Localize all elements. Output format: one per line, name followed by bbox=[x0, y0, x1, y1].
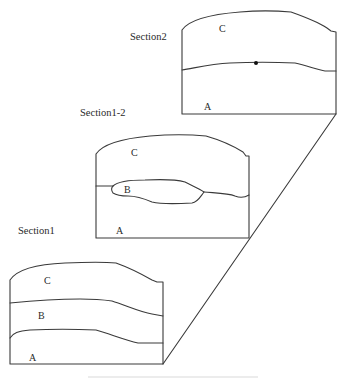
section2-marker-dot bbox=[254, 61, 258, 65]
stratigraphic-sections-diagram: Section2 C A Section1-2 C B A Section1 C… bbox=[0, 0, 347, 381]
section1-label: Section1 bbox=[18, 225, 55, 236]
section1-2-block: Section1-2 C B A bbox=[80, 107, 249, 238]
perspective-connector-line bbox=[163, 114, 336, 364]
faint-caption bbox=[88, 376, 258, 378]
section1-outline bbox=[10, 262, 163, 364]
section1-block: Section1 C B A bbox=[10, 225, 163, 364]
section2-label: Section2 bbox=[130, 31, 167, 42]
section1-2-layer-boundary-right bbox=[204, 192, 249, 197]
section1-2-outline bbox=[96, 135, 249, 238]
section2-block: Section2 C A bbox=[130, 11, 336, 114]
section1-2-layer-c-label: C bbox=[131, 147, 138, 158]
section1-2-layer-a-label: A bbox=[116, 225, 124, 236]
section1-layer-b-label: B bbox=[38, 310, 45, 321]
section2-layer-a-label: A bbox=[204, 101, 212, 112]
section1-upper-boundary bbox=[10, 299, 163, 316]
section2-layer-c-label: C bbox=[219, 23, 226, 34]
section1-2-layer-b-label: B bbox=[124, 184, 131, 195]
section1-lower-boundary bbox=[10, 329, 163, 343]
section2-layer-boundary bbox=[182, 62, 336, 71]
section1-2-label: Section1-2 bbox=[80, 107, 126, 118]
section1-layer-c-label: C bbox=[44, 275, 51, 286]
section1-layer-a-label: A bbox=[29, 352, 37, 363]
